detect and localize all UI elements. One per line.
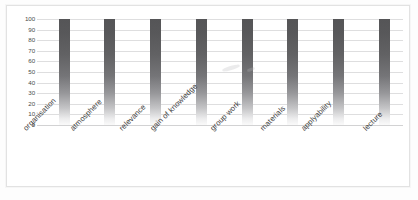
- bar-gain-of-knowledge: [196, 19, 207, 125]
- chart-frame: 100 90 80 70 60 50 40 30 20 10 0 organis…: [6, 5, 410, 187]
- y-tick-label: 20: [15, 100, 35, 106]
- y-tick-label: 70: [15, 47, 35, 53]
- x-axis: organisation atmosphere relevance gain o…: [37, 127, 403, 185]
- y-tick-label: 90: [15, 26, 35, 32]
- bar-relevance: [150, 19, 161, 125]
- y-tick-label: 60: [15, 58, 35, 64]
- y-tick-label: 40: [15, 79, 35, 85]
- bar-materials: [287, 19, 298, 125]
- y-tick-label: 80: [15, 37, 35, 43]
- y-tick-label: 100: [15, 16, 35, 22]
- y-tick-label: 30: [15, 90, 35, 96]
- bar-atmosphere: [104, 19, 115, 125]
- bar-organisation: [59, 19, 70, 125]
- scanned-page: 100 90 80 70 60 50 40 30 20 10 0 organis…: [0, 0, 418, 200]
- bar-lecture: [379, 19, 390, 125]
- y-axis: 100 90 80 70 60 50 40 30 20 10 0: [15, 19, 35, 125]
- y-tick-label: 50: [15, 69, 35, 75]
- bar-group-work: [242, 19, 253, 125]
- bar-applyability: [333, 19, 344, 125]
